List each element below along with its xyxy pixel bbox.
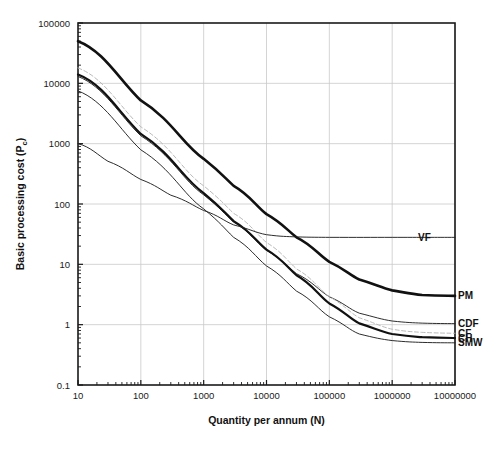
x-tick-label: 100000 [313,390,345,401]
y-tick-label: 10000 [44,78,70,89]
log-log-line-chart: 10100100010000100000100000010000000 0.11… [0,0,498,452]
series-label-vf: VF [418,232,431,243]
y-axis-title-main: Basic processing cost (P [14,145,26,270]
y-axis-title-tail: ) [14,138,26,142]
x-tick-label: 100 [133,390,149,401]
y-tick-label: 0.1 [57,380,70,391]
chart-container: 10100100010000100000100000010000000 0.11… [0,0,498,452]
y-tick-label: 100000 [38,18,70,29]
y-tick-label: 1 [65,319,70,330]
y-tick-label: 100 [54,199,70,210]
series-label-pm: PM [458,290,473,301]
x-tick-label: 1000000 [374,390,411,401]
x-tick-label: 10000 [253,390,279,401]
series-label-smw: SMW [458,337,483,348]
y-tick-label: 1000 [49,138,70,149]
x-tick-label: 10 [73,390,84,401]
x-tick-label: 10000000 [434,390,476,401]
y-tick-label: 10 [59,259,70,270]
x-axis-title: Quantity per annum (N) [208,414,325,426]
x-tick-label: 1000 [193,390,214,401]
